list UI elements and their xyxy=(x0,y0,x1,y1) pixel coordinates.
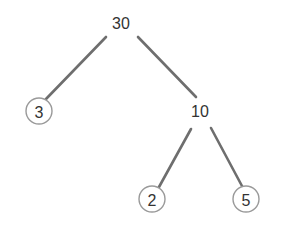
node-label-3: 3 xyxy=(35,104,44,121)
node-3: 3 xyxy=(26,98,52,124)
edge-10-to-2 xyxy=(159,129,191,187)
edge-10-to-5 xyxy=(211,128,242,186)
node-10: 10 xyxy=(191,103,209,120)
node-5: 5 xyxy=(233,186,259,212)
node-label-2: 2 xyxy=(148,192,157,209)
node-2: 2 xyxy=(139,186,165,212)
node-30: 30 xyxy=(112,15,130,32)
edge-30-to-10 xyxy=(138,37,196,97)
edge-30-to-3 xyxy=(46,37,106,99)
tree-diagram: 30 3 10 2 5 xyxy=(0,0,283,239)
node-label-5: 5 xyxy=(242,192,251,209)
node-label-30: 30 xyxy=(112,15,130,32)
node-label-10: 10 xyxy=(191,103,209,120)
